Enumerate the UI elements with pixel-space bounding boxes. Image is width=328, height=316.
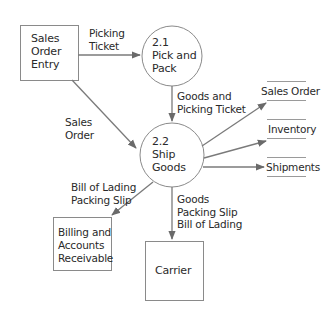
data-store-sales-order-label: Sales Order: [261, 85, 320, 97]
flow-to-inventory-store: [204, 141, 266, 158]
flow-label-goods-packing-slip-bill: Goods Packing Slip Bill of Lading: [177, 193, 242, 231]
process-2-1-label: 2.1 Pick and Pack: [152, 36, 196, 75]
billing-ar-label: Billing and Accounts Receivable: [58, 226, 113, 265]
data-store-shipments-label: Shipments: [266, 161, 320, 173]
flow-label-goods-picking-ticket: Goods and Picking Ticket: [177, 90, 246, 115]
sales-order-entry-label: Sales Order Entry: [31, 32, 61, 71]
process-2-2-label: 2.2 Ship Goods: [152, 135, 186, 174]
data-store-inventory-label: Inventory: [268, 123, 316, 135]
flow-label-bill-of-lading-packing-slip: Bill of Lading Packing Slip: [71, 181, 136, 206]
flow-label-sales-order: Sales Order: [65, 116, 94, 141]
flow-label-picking-ticket: Picking Ticket: [89, 27, 125, 52]
carrier-label: Carrier: [155, 264, 191, 277]
